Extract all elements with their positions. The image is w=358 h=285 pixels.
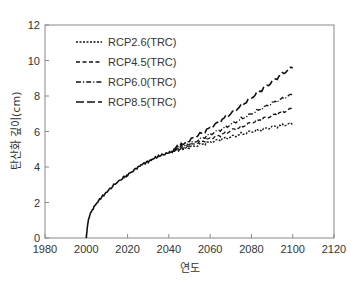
y-tick-label: 8: [34, 90, 40, 102]
y-tick-label: 6: [34, 126, 40, 138]
x-tick-label: 2060: [198, 243, 222, 255]
legend-label-rcp26: RCP2.6(TRC): [108, 36, 176, 48]
x-tick-label: 2040: [157, 243, 181, 255]
y-axis-label: 탄산화 깊이(cm): [10, 92, 23, 171]
legend-label-rcp85: RCP8.5(TRC): [108, 96, 176, 108]
x-tick-label: 1980: [33, 243, 57, 255]
carbonation-depth-chart: 19802000202020402060208021002120 0246810…: [0, 0, 358, 285]
legend-label-rcp45: RCP4.5(TRC): [108, 56, 176, 68]
x-tick-label: 2020: [115, 243, 139, 255]
x-tick-label: 2100: [280, 243, 304, 255]
y-tick-label: 0: [34, 232, 40, 244]
x-tick-label: 2120: [322, 243, 346, 255]
x-tick-label: 2000: [74, 243, 98, 255]
y-tick-label: 2: [34, 197, 40, 209]
legend-label-rcp60: RCP6.0(TRC): [108, 76, 176, 88]
y-tick-label: 12: [28, 19, 40, 31]
x-axis-label: 연도: [180, 262, 200, 275]
x-tick-label: 2080: [239, 243, 263, 255]
y-tick-label: 10: [28, 55, 40, 67]
y-tick-label: 4: [34, 161, 40, 173]
